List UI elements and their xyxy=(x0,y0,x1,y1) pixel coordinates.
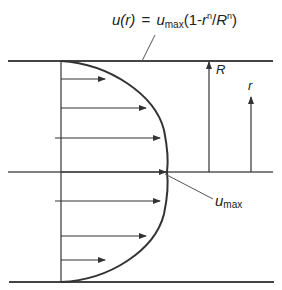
radius-r-label: r xyxy=(248,78,253,93)
umax-leader-line xyxy=(165,174,213,199)
formula-label: u(r) = umax(1-rn/Rn) xyxy=(112,11,237,30)
pipe-flow-velocity-diagram: R r u(r) = umax(1-rn/Rn) umax xyxy=(0,0,282,290)
umax-label: umax xyxy=(215,192,242,210)
radius-R-label: R xyxy=(216,62,225,77)
formula-leader-line xyxy=(142,35,155,61)
